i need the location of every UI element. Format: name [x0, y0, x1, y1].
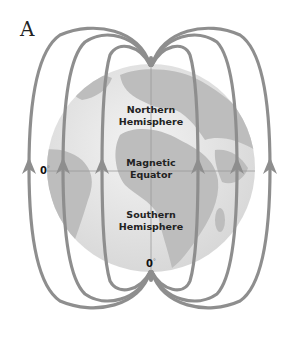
northern-hemisphere-label: Northern Hemisphere: [111, 104, 191, 128]
label-line: Hemisphere: [111, 116, 191, 128]
southern-hemisphere-label: Southern Hemisphere: [111, 209, 191, 233]
equator-degree-label: 0°: [40, 164, 50, 176]
meridian-degree-label: 0°: [146, 257, 156, 269]
magnetic-equator-label: Magnetic Equator: [111, 157, 191, 181]
label-line: Southern: [111, 209, 191, 221]
label-line: Hemisphere: [111, 221, 191, 233]
label-line: Magnetic: [111, 157, 191, 169]
degree-symbol: °: [153, 257, 156, 264]
label-line: Equator: [111, 169, 191, 181]
degree-value: 0: [40, 165, 47, 176]
label-line: Northern: [111, 104, 191, 116]
degree-value: 0: [146, 258, 153, 269]
degree-symbol: °: [47, 164, 50, 171]
